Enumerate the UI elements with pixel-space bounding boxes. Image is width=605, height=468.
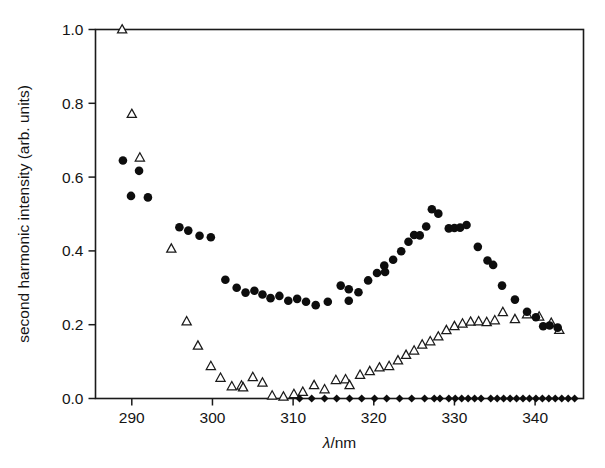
point-filled-circle-43 (498, 281, 507, 290)
point-open-triangle-15 (289, 389, 298, 397)
y-ticklabel-0.4: 0.4 (62, 242, 84, 259)
point-filled-circle-25 (373, 269, 382, 278)
point-filled-circle-32 (415, 231, 424, 240)
point-open-triangle-4 (182, 317, 191, 325)
lambda-symbol: λ (322, 434, 331, 451)
point-filled-diamond-18 (477, 395, 485, 403)
point-filled-circle-14 (275, 292, 284, 301)
point-open-triangle-30 (426, 336, 435, 344)
point-filled-circle-46 (532, 313, 541, 322)
point-filled-circle-7 (207, 233, 216, 242)
series-filled-circle (119, 156, 562, 332)
point-filled-circle-4 (175, 223, 184, 232)
y-ticklabel-0.0: 0.0 (62, 390, 84, 407)
point-open-triangle-19 (331, 375, 340, 383)
point-filled-diamond-5 (358, 395, 366, 403)
point-filled-diamond-10 (421, 395, 429, 403)
point-filled-circle-9 (232, 284, 241, 293)
point-open-triangle-16 (298, 387, 307, 395)
point-open-triangle-39 (498, 307, 507, 315)
point-filled-circle-3 (144, 193, 153, 202)
point-filled-circle-44 (511, 295, 520, 304)
x-ticklabel-340: 340 (522, 409, 548, 426)
point-open-triangle-38 (490, 315, 499, 323)
point-open-triangle-18 (320, 384, 329, 392)
point-filled-circle-22 (344, 296, 353, 305)
point-open-triangle-24 (375, 363, 384, 371)
point-filled-circle-39 (462, 221, 471, 230)
point-open-triangle-17 (309, 380, 318, 388)
plot-frame (96, 30, 584, 399)
point-open-triangle-33 (450, 321, 459, 329)
plot-box (96, 30, 584, 399)
y-ticklabel-0.8: 0.8 (62, 95, 84, 112)
point-filled-circle-12 (258, 290, 267, 299)
point-open-triangle-6 (206, 361, 215, 369)
x-axis-title-unit: /nm (330, 434, 356, 451)
y-axis-title: second harmonic intensity (arb. units) (15, 85, 32, 343)
point-filled-circle-10 (241, 288, 250, 297)
point-filled-circle-15 (284, 296, 293, 305)
axis-tick-labels: 2903003103203303400.00.20.40.60.81.0 (62, 21, 548, 426)
series-open-triangle (118, 25, 564, 400)
point-filled-circle-2 (135, 167, 144, 176)
point-filled-circle-48 (545, 321, 554, 330)
point-filled-diamond-7 (383, 395, 391, 403)
point-filled-diamond-8 (396, 395, 404, 403)
data-series-layer (118, 25, 579, 403)
x-ticklabel-290: 290 (119, 409, 145, 426)
point-filled-circle-40 (474, 243, 483, 252)
point-filled-circle-16 (293, 295, 302, 304)
point-filled-diamond-32 (571, 395, 579, 403)
point-open-triangle-35 (466, 317, 475, 325)
point-filled-diamond-6 (371, 395, 379, 403)
x-ticklabel-300: 300 (200, 409, 226, 426)
point-filled-diamond-4 (346, 395, 354, 403)
point-filled-circle-13 (266, 294, 275, 303)
point-filled-circle-0 (119, 156, 128, 165)
point-filled-circle-6 (195, 231, 204, 240)
point-open-triangle-8 (227, 381, 236, 389)
point-open-triangle-12 (258, 378, 267, 386)
y-ticklabel-1.0: 1.0 (62, 21, 84, 38)
figure-container: 2903003103203303400.00.20.40.60.81.0 λ/n… (0, 0, 605, 468)
point-filled-circle-11 (250, 286, 259, 295)
series-filled-diamond (296, 395, 579, 403)
point-filled-circle-5 (184, 226, 193, 235)
point-open-triangle-25 (385, 361, 394, 369)
point-filled-circle-21 (344, 285, 353, 294)
point-filled-circle-30 (404, 237, 413, 246)
y-ticklabel-0.2: 0.2 (62, 316, 84, 333)
point-open-triangle-1 (127, 109, 136, 117)
point-filled-circle-35 (434, 209, 443, 218)
point-open-triangle-11 (248, 372, 257, 380)
point-filled-circle-23 (354, 288, 363, 297)
point-open-triangle-3 (167, 244, 176, 252)
point-filled-circle-42 (489, 261, 498, 270)
point-filled-circle-49 (553, 323, 562, 332)
scatter-plot: 2903003103203303400.00.20.40.60.81.0 λ/n… (0, 0, 605, 468)
point-open-triangle-28 (410, 346, 419, 354)
point-open-triangle-23 (365, 366, 374, 374)
x-axis-title: λ/nm (322, 434, 356, 451)
point-open-triangle-7 (216, 373, 225, 381)
point-open-triangle-5 (193, 341, 202, 349)
x-ticklabel-310: 310 (280, 409, 306, 426)
point-filled-diamond-3 (333, 395, 341, 403)
point-filled-circle-1 (127, 192, 136, 201)
point-filled-circle-45 (523, 307, 532, 316)
point-filled-diamond-1 (308, 395, 316, 403)
point-filled-circle-20 (336, 281, 345, 290)
point-filled-diamond-2 (321, 395, 329, 403)
point-open-triangle-13 (268, 391, 277, 399)
point-open-triangle-2 (135, 153, 144, 161)
point-filled-circle-27 (381, 268, 390, 277)
point-open-triangle-40 (510, 314, 519, 322)
point-filled-circle-33 (422, 222, 431, 231)
point-open-triangle-26 (393, 356, 402, 364)
point-filled-circle-28 (389, 255, 398, 264)
point-filled-circle-29 (397, 247, 406, 256)
point-filled-diamond-9 (408, 395, 416, 403)
point-filled-circle-8 (221, 275, 230, 284)
point-filled-circle-19 (324, 298, 333, 307)
